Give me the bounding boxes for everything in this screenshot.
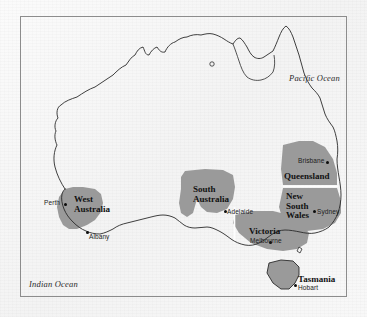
state-label-south-australia: South Australia — [193, 185, 229, 204]
map-page: Pacific Ocean Indian Ocean West Australi… — [0, 0, 367, 317]
pacific-ocean-label: Pacific Ocean — [289, 73, 340, 83]
city-label-adelaide: Adelaide — [227, 208, 253, 215]
state-label-new-south-wales-line3: Wales — [286, 211, 309, 221]
city-label-hobart: Hobart — [298, 284, 318, 291]
state-label-south-australia-line2: Australia — [193, 195, 229, 205]
state-label-west-australia: West Australia — [74, 195, 110, 214]
state-label-west-australia-line2: Australia — [74, 205, 110, 215]
sydney-dot-icon — [313, 210, 316, 213]
brisbane-dot-icon — [326, 161, 329, 164]
gulf-of-carpentaria-detail — [233, 44, 275, 80]
state-label-queensland: Queensland — [284, 172, 330, 182]
state-label-new-south-wales: New South Wales — [286, 192, 309, 221]
perth-dot-icon — [64, 203, 67, 206]
state-label-victoria-line1: Victoria — [249, 227, 280, 237]
state-label-victoria: Victoria — [249, 227, 280, 237]
city-label-brisbane: Brisbane — [298, 157, 324, 164]
city-label-perth: Perth — [44, 199, 60, 206]
inland-marker-icon — [210, 62, 214, 66]
city-label-albany: Albany — [89, 233, 109, 240]
indian-ocean-label: Indian Ocean — [29, 279, 78, 289]
hobart-dot-icon — [294, 284, 297, 287]
city-label-sydney: Sydney — [317, 208, 339, 215]
state-label-queensland-line1: Queensland — [284, 172, 330, 182]
city-label-melbourne: Melbourne — [250, 237, 282, 244]
map-frame-border: Pacific Ocean Indian Ocean West Australi… — [20, 16, 347, 297]
